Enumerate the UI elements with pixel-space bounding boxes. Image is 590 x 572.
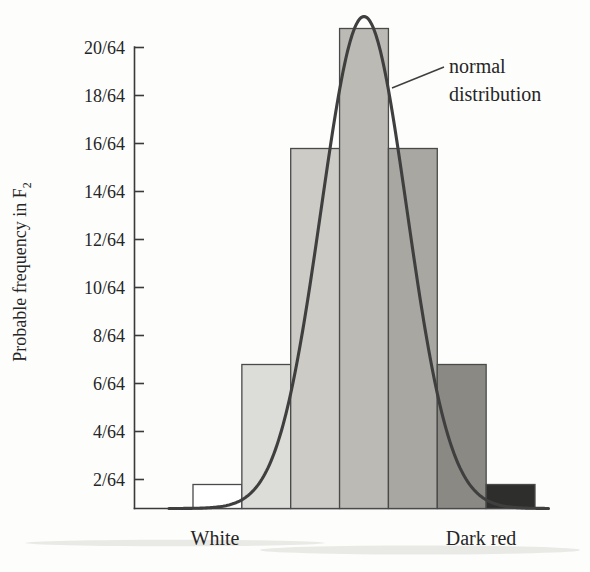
annotation-line-1: normal	[449, 55, 506, 77]
y-axis-ticks	[135, 48, 145, 480]
histogram-bar	[437, 365, 486, 509]
histogram-bar	[486, 485, 535, 509]
y-tick-label-18: 18/64	[84, 86, 125, 106]
y-tick-label-10: 10/64	[84, 278, 125, 298]
y-tick-label-12: 12/64	[84, 230, 125, 250]
y-tick-label-2: 2/64	[93, 470, 125, 490]
annotation-line-2: distribution	[449, 83, 541, 105]
paper-smudge-right	[260, 546, 580, 555]
histogram-bar	[193, 485, 242, 509]
y-tick-label-14: 14/64	[84, 182, 125, 202]
annotation-leader-line	[392, 67, 444, 88]
histogram-bar	[388, 149, 437, 509]
y-axis-label: Probable frequency in F2	[10, 182, 34, 361]
svg-text:Probable frequency in F2: Probable frequency in F2	[10, 182, 34, 361]
y-tick-label-16: 16/64	[84, 134, 125, 154]
histogram-chart: Probable frequency in F2 20/64 18/64 16/…	[0, 0, 590, 572]
chart-figure: Probable frequency in F2 20/64 18/64 16/…	[0, 0, 590, 572]
histogram-bar	[242, 365, 291, 509]
y-tick-label-6: 6/64	[93, 374, 125, 394]
x-label-white: White	[191, 527, 240, 549]
y-axis-label-subscript: 2	[20, 182, 34, 188]
y-tick-label-20: 20/64	[84, 38, 125, 58]
normal-distribution-annotation: normal distribution	[449, 55, 541, 105]
y-axis-tick-labels: 20/64 18/64 16/64 14/64 12/64 10/64 8/64…	[84, 38, 125, 490]
y-tick-label-4: 4/64	[93, 422, 125, 442]
y-tick-label-8: 8/64	[93, 326, 125, 346]
paper-smudge	[25, 540, 325, 546]
x-label-dark-red: Dark red	[446, 527, 517, 549]
histogram-bar	[340, 29, 389, 509]
x-axis-category-labels: White Dark red	[191, 527, 517, 549]
y-axis-label-text: Probable frequency in F	[10, 188, 30, 361]
histogram-bar	[291, 149, 340, 509]
